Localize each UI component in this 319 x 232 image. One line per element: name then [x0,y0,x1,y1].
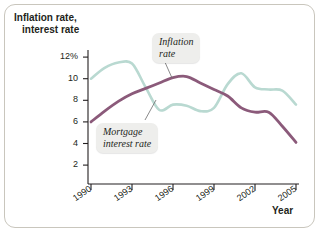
mortgage-leader-line [145,100,156,120]
y-axis-title-line2: interest rate [14,24,79,36]
mortgage-callout-line2: interest rate [103,138,151,150]
chart-figure: Inflation rate, interest rate Year 12% 1… [0,0,319,232]
y-tick-label-4: 4 [52,138,78,148]
y-axis-title: Inflation rate, interest rate [14,12,79,36]
inflation-rate-callout: Inflation rate [152,33,200,63]
inflation-callout-line1: Inflation [159,36,193,48]
y-tick-label-10: 10 [52,73,78,83]
y-tick-label-6: 6 [52,116,78,126]
x-axis-title: Year [272,205,293,217]
inflation-callout-line2: rate [159,48,193,60]
mortgage-interest-rate-callout: Mortgage interest rate [96,123,158,153]
mortgage-interest-rate-line [91,61,296,111]
y-tick-label-2: 2 [52,159,78,169]
y-tick-label-12: 12% [52,51,78,61]
y-tick-label-8: 8 [52,94,78,104]
mortgage-callout-line1: Mortgage [103,126,151,138]
y-axis-title-line1: Inflation rate, [14,12,77,23]
axes [83,50,299,190]
